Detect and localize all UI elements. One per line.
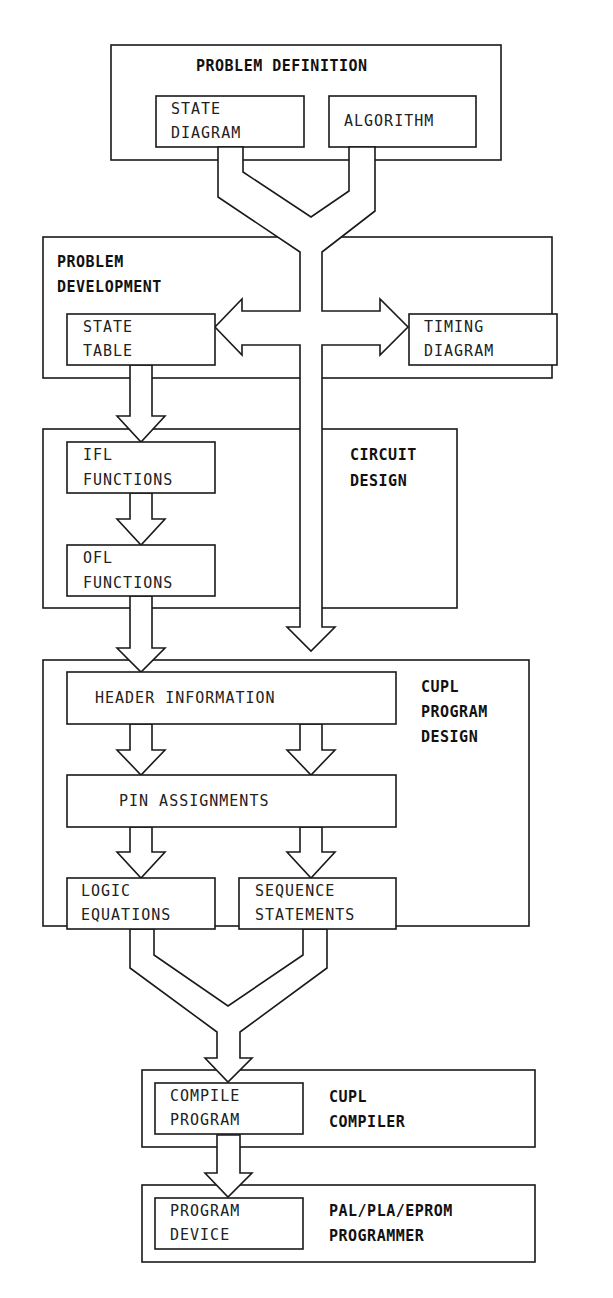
state-diagram-label-2: DIAGRAM — [171, 121, 241, 146]
timing-diagram-label-1: TIMING — [424, 315, 484, 340]
problem-development-title-2: DEVELOPMENT — [57, 275, 162, 300]
algorithm-label: ALGORITHM — [344, 109, 434, 134]
design-flow-diagram: MENT SEQUENCE 155 — [0, 0, 613, 1298]
timing-diagram-label-2: DIAGRAM — [424, 339, 494, 364]
problem-definition-title: PROBLEM DEFINITION — [196, 54, 368, 79]
compile-program-label-2: PROGRAM — [170, 1108, 240, 1133]
sequence-statements-label-2: STATEMENTS — [255, 903, 355, 928]
program-device-label-2: DEVICE — [170, 1223, 230, 1248]
program-device-label-1: PROGRAM — [170, 1199, 240, 1224]
ofl-functions-label-2: FUNCTIONS — [83, 571, 173, 596]
pin-assignments-label: PIN ASSIGNMENTS — [119, 789, 269, 814]
circuit-design-title-2: DESIGN — [350, 469, 407, 494]
logic-equations-label-1: LOGIC — [81, 879, 131, 904]
cupl-program-design-title-3: DESIGN — [421, 725, 478, 750]
circuit-design-title-1: CIRCUIT — [350, 443, 417, 468]
sequence-statements-label-1: SEQUENCE — [255, 879, 335, 904]
header-information-label: HEADER INFORMATION — [95, 686, 276, 711]
cupl-compiler-title-2: COMPILER — [329, 1110, 405, 1135]
state-diagram-label-1: STATE — [171, 97, 221, 122]
compile-program-label-1: COMPILE — [170, 1084, 240, 1109]
cupl-compiler-title-1: CUPL — [329, 1085, 367, 1110]
programmer-title-2: PROGRAMMER — [329, 1224, 424, 1249]
programmer-title-1: PAL/PLA/EPROM — [329, 1199, 453, 1224]
ifl-functions-label-1: IFL — [83, 443, 113, 468]
state-table-label-2: TABLE — [83, 339, 133, 364]
ifl-functions-label-2: FUNCTIONS — [83, 468, 173, 493]
diagram-shapes — [0, 0, 613, 1298]
cupl-program-design-title-1: CUPL — [421, 675, 459, 700]
state-table-label-1: STATE — [83, 315, 133, 340]
cupl-program-design-title-2: PROGRAM — [421, 700, 488, 725]
ofl-functions-label-1: OFL — [83, 546, 113, 571]
problem-development-title-1: PROBLEM — [57, 250, 124, 275]
logic-equations-label-2: EQUATIONS — [81, 903, 171, 928]
